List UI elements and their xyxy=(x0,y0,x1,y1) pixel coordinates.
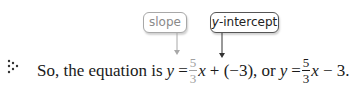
fraction-2-denominator: 3 xyxy=(302,72,311,85)
sentence-tail: − 3. xyxy=(323,61,350,81)
slope-fraction: 5 3 xyxy=(189,56,198,85)
equation-sentence: So, the equation is y = 5 3 x + (−3), or… xyxy=(37,54,350,88)
intercept-part: + (−3), or xyxy=(210,61,276,81)
fraction-2-numerator: 5 xyxy=(302,56,311,69)
equals-sign-2: = xyxy=(291,61,301,81)
y-intercept-callout: y-intercept xyxy=(210,12,279,33)
equals-sign: = xyxy=(178,61,188,81)
slope-callout: slope xyxy=(143,12,187,33)
dotted-triangle-bullet-icon xyxy=(7,59,19,75)
variable-x: x xyxy=(198,61,206,81)
variable-y-2: y xyxy=(280,61,288,81)
sentence-lead: So, the equation is xyxy=(37,61,163,81)
variable-x-2: x xyxy=(311,61,319,81)
slope-callout-label: slope xyxy=(149,15,181,29)
y-intercept-callout-label: -intercept xyxy=(219,15,277,29)
y-intercept-callout-var: y xyxy=(212,15,219,29)
slope-numerator: 5 xyxy=(189,56,198,69)
slope-denominator: 3 xyxy=(189,72,198,85)
fraction-2: 5 3 xyxy=(302,56,311,85)
variable-y: y xyxy=(167,61,175,81)
